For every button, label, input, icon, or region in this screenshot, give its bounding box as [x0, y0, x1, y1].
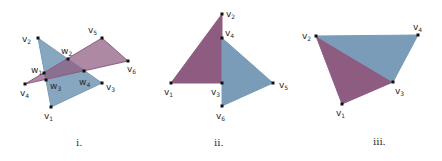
- vertex-label-v2: v2: [22, 34, 31, 45]
- vertex-subscript: 2: [27, 38, 31, 45]
- vertex-subscript: 6: [132, 68, 136, 75]
- vertex-point-w2: [67, 58, 70, 61]
- vertex-point-v6: [221, 105, 224, 108]
- vertex-point-v5: [272, 82, 275, 85]
- vertex-subscript: 2: [68, 50, 72, 57]
- figure-i: v2v5w2v6w1w4v4w3v3v1i.: [20, 25, 136, 148]
- vertex-label-v1: v1: [164, 87, 173, 98]
- vertex-point-w4: [83, 70, 86, 73]
- vertex-subscript: 2: [307, 35, 311, 42]
- vertex-label-v3: v3: [395, 86, 404, 97]
- vertex-label-v6: v6: [127, 64, 136, 75]
- vertex-point-v4: [221, 37, 224, 40]
- vertex-point-v6: [127, 60, 130, 63]
- figure-ii: v2v4v1v3v5v6ii.: [164, 9, 288, 148]
- triangle-diagram: v2v5w2v6w1w4v4w3v3v1i. v2v4v1v3v5v6ii. v…: [0, 0, 442, 161]
- vertex-label-v2: v2: [302, 31, 311, 42]
- vertex-subscript: 3: [400, 90, 404, 97]
- vertex-label-v3: v3: [211, 87, 220, 98]
- vertex-label-v4: v4: [413, 22, 422, 33]
- vertex-point-v1: [341, 103, 344, 106]
- figure-iii: v2v4v3v1iii.: [302, 22, 422, 147]
- vertex-subscript: 1: [169, 91, 173, 98]
- vertex-subscript: 4: [230, 32, 234, 39]
- vertex-point-v4: [24, 83, 27, 86]
- vertex-subscript: 5: [284, 84, 288, 91]
- vertex-label-v2: v2: [226, 9, 235, 20]
- vertex-point-w1: [43, 72, 46, 75]
- vertex-point-v3: [392, 81, 395, 84]
- vertex-label-v3: v3: [106, 82, 115, 93]
- vertex-label-v5: v5: [88, 25, 97, 36]
- vertex-label-v6: v6: [216, 111, 225, 122]
- vertex-point-v4: [417, 34, 420, 37]
- vertex-point-v2: [221, 13, 224, 16]
- purple-triangle: [171, 14, 222, 83]
- vertex-point-v2: [315, 35, 318, 38]
- figure-caption: iii.: [373, 136, 386, 147]
- vertex-point-v3: [221, 82, 224, 85]
- vertex-subscript: 4: [25, 92, 29, 99]
- vertex-label-w1: w1: [31, 65, 42, 76]
- vertex-point-v3: [101, 82, 104, 85]
- vertex-subscript: 3: [57, 85, 61, 92]
- vertex-point-v1: [170, 82, 173, 85]
- figure-caption: ii.: [214, 137, 224, 148]
- vertex-subscript: 5: [93, 29, 97, 36]
- vertex-subscript: 4: [418, 26, 422, 33]
- vertex-label-v1: v1: [44, 111, 53, 122]
- vertex-label-v4: v4: [225, 28, 234, 39]
- vertex-point-v2: [37, 37, 40, 40]
- vertex-subscript: 4: [86, 81, 90, 88]
- vertex-subscript: 3: [111, 86, 115, 93]
- blue-triangle: [222, 38, 273, 106]
- vertex-label-v4: v4: [20, 88, 29, 99]
- vertex-label-v5: v5: [279, 80, 288, 91]
- figure-caption: i.: [76, 137, 82, 148]
- vertex-subscript: 1: [341, 112, 345, 119]
- vertex-subscript: 1: [49, 115, 53, 122]
- vertex-subscript: 1: [38, 69, 42, 76]
- vertex-subscript: 2: [231, 13, 235, 20]
- vertex-point-w3: [45, 79, 48, 82]
- vertex-point-v5: [101, 37, 104, 40]
- vertex-label-v1: v1: [336, 108, 345, 119]
- vertex-point-v1: [50, 106, 53, 109]
- vertex-subscript: 6: [221, 115, 225, 122]
- vertex-label-w2: w2: [61, 46, 72, 57]
- vertex-subscript: 3: [216, 91, 220, 98]
